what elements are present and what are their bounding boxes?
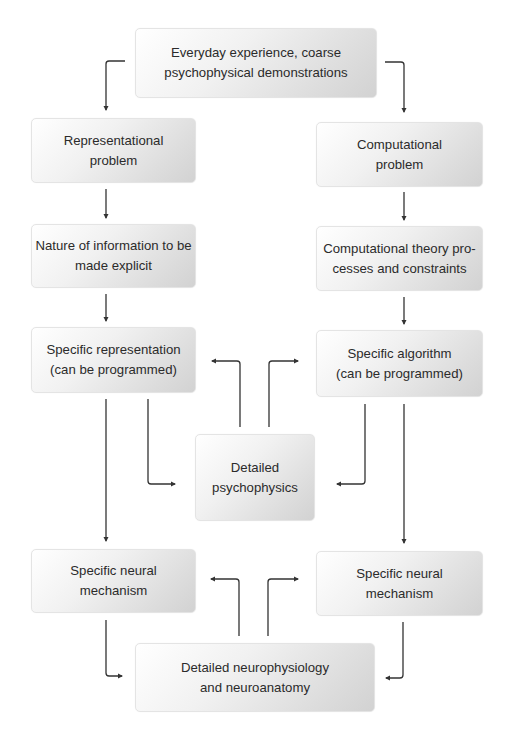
- arrow-neural-right-to-neurophysiology: [386, 622, 403, 678]
- node-specific-representation: Specific representation (can be programm…: [31, 327, 196, 393]
- arrow-neurophysiology-to-neural-left: [211, 579, 239, 636]
- node-label: Representational problem: [64, 131, 164, 171]
- arrow-neural-left-to-neurophysiology: [106, 620, 122, 676]
- node-label: Computational theory pro- cesses and con…: [323, 239, 475, 279]
- node-neural-mechanism-left: Specific neural mechanism: [31, 549, 196, 613]
- node-label: Computational problem: [357, 135, 442, 175]
- node-representational-problem: Representational problem: [31, 118, 196, 183]
- node-detailed-neurophysiology: Detailed neurophysiology and neuroanatom…: [135, 643, 375, 712]
- node-neural-mechanism-right: Specific neural mechanism: [316, 551, 483, 616]
- node-detailed-psychophysics: Detailed psychophysics: [195, 434, 315, 521]
- node-label: Specific algorithm (can be programmed): [336, 344, 463, 384]
- arrow-neurophysiology-to-neural-right: [268, 579, 298, 636]
- node-label: Specific neural mechanism: [356, 564, 443, 604]
- node-nature-of-information: Nature of information to be made explici…: [31, 224, 196, 288]
- node-label: Detailed neurophysiology and neuroanatom…: [181, 658, 329, 698]
- arrow-specific-alg-to-psychophysics: [337, 404, 365, 484]
- arrow-specific-rep-to-psychophysics: [148, 399, 175, 484]
- node-label: Everyday experience, coarse psychophysic…: [164, 43, 347, 83]
- node-computational-problem: Computational problem: [316, 122, 483, 187]
- arrow-psychophysics-to-specific-alg: [269, 361, 298, 427]
- node-label: Nature of information to be made explici…: [35, 236, 191, 276]
- node-everyday-experience: Everyday experience, coarse psychophysic…: [135, 28, 377, 98]
- node-label: Specific neural mechanism: [70, 561, 157, 601]
- arrow-psychophysics-to-specific-rep: [212, 361, 240, 427]
- node-specific-algorithm: Specific algorithm (can be programmed): [316, 330, 483, 397]
- node-label: Detailed psychophysics: [212, 458, 298, 498]
- arrow-top-to-comp-problem: [385, 62, 404, 112]
- node-label: Specific representation (can be programm…: [46, 340, 180, 380]
- node-computational-theory: Computational theory pro- cesses and con…: [316, 226, 483, 291]
- arrow-top-to-rep-problem: [106, 61, 125, 110]
